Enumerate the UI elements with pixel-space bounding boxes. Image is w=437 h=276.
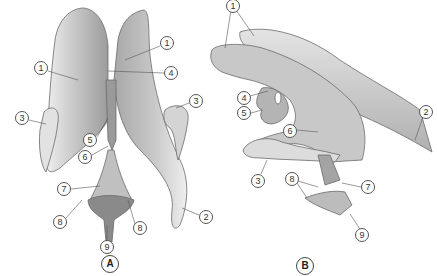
callout-a-8-left: 8 (53, 215, 67, 229)
left-lateral-ventricle (46, 8, 108, 172)
callout-b-2: 2 (419, 105, 433, 119)
figure-b-drawing (211, 29, 432, 215)
callout-b-4: 4 (237, 91, 251, 105)
callout-a-3-left: 3 (15, 111, 29, 125)
callout-a-6: 6 (78, 150, 92, 164)
callout-a-1-left: 1 (34, 61, 48, 75)
ventricle-illustration (0, 0, 437, 276)
callout-b-7: 7 (361, 180, 375, 194)
callout-a-8-right: 8 (133, 221, 147, 235)
fourth-ventricle-b (305, 191, 352, 215)
figure-label-a: A (101, 255, 119, 273)
callout-b-6: 6 (283, 124, 297, 138)
figure-label-b: B (296, 257, 314, 275)
fourth-ventricle (88, 196, 134, 243)
callout-a-7: 7 (57, 182, 71, 196)
callout-a-1-right: 1 (160, 36, 174, 50)
callout-a-5: 5 (83, 133, 97, 147)
callout-b-8: 8 (285, 172, 299, 186)
callout-a-4: 4 (164, 66, 178, 80)
callout-b-3: 3 (251, 174, 265, 188)
interthalamic-adhesion (275, 92, 281, 104)
callout-b-9: 9 (355, 228, 369, 242)
callout-a-3-right: 3 (189, 94, 203, 108)
callout-a-9: 9 (100, 240, 114, 254)
cerebral-aqueduct (90, 150, 132, 200)
diagram-canvas: 1 1 4 3 3 5 6 7 8 8 2 9 1 2 4 5 6 3 8 7 … (0, 0, 437, 276)
third-ventricle (106, 80, 116, 150)
callout-b-5: 5 (237, 106, 251, 120)
callout-a-2: 2 (199, 210, 213, 224)
